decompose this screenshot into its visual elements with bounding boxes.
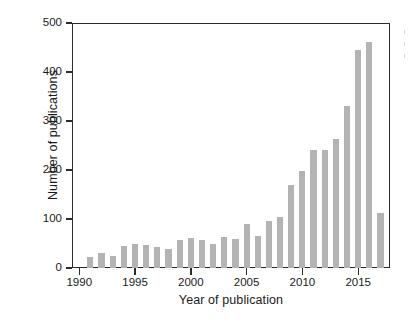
publications-bar-chart-figure: Number of publications 0100200300400500 … xyxy=(0,0,410,325)
x-tick-label: 1990 xyxy=(57,277,101,289)
x-tick-label: 2015 xyxy=(336,277,380,289)
plot-area xyxy=(72,23,390,268)
x-tick-label: 1995 xyxy=(113,277,157,289)
y-tick-label: 200 xyxy=(26,164,62,176)
x-tick-mark xyxy=(246,268,247,275)
x-tick-label: 2000 xyxy=(169,277,213,289)
y-tick-label: 0 xyxy=(26,262,62,274)
x-tick-mark xyxy=(302,268,303,275)
y-tick-label: 100 xyxy=(26,213,62,225)
x-tick-mark xyxy=(79,268,80,275)
y-tick-label: 300 xyxy=(26,115,62,127)
x-tick-label: 2010 xyxy=(280,277,324,289)
x-tick-mark xyxy=(358,268,359,275)
y-tick-label: 500 xyxy=(26,17,62,29)
edge-artifact xyxy=(404,30,405,34)
x-axis-title: Year of publication xyxy=(72,293,390,307)
x-tick-mark xyxy=(134,268,135,275)
edge-artifact xyxy=(404,42,405,46)
edge-artifact xyxy=(404,54,405,58)
y-tick-label: 400 xyxy=(26,66,62,78)
x-tick-label: 2005 xyxy=(225,277,269,289)
x-tick-mark xyxy=(190,268,191,275)
